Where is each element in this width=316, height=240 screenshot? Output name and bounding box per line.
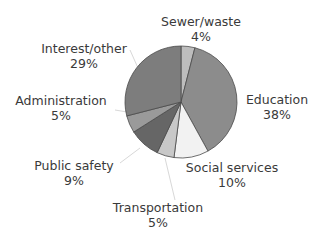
label-interest-other: Interest/other 29% [41, 41, 127, 71]
label-pct: 5% [113, 215, 203, 230]
label-transportation: Transportation 5% [113, 200, 203, 230]
leader-line-public-safety [120, 148, 140, 163]
label-social-services: Social services 10% [186, 160, 278, 190]
label-name: Transportation [113, 200, 203, 215]
label-administration: Administration 5% [15, 93, 106, 123]
label-public-safety: Public safety 9% [34, 158, 114, 188]
leader-line-interest [130, 50, 138, 68]
label-pct: 9% [34, 173, 114, 188]
label-pct: 29% [41, 56, 127, 71]
label-sewer-waste: Sewer/waste 4% [161, 14, 241, 44]
label-pct: 10% [186, 175, 278, 190]
label-name: Education [246, 92, 308, 107]
leader-line-administration [115, 110, 127, 112]
label-name: Social services [186, 160, 278, 175]
label-pct: 5% [15, 108, 106, 123]
leader-line-transportation [165, 158, 175, 200]
label-education: Education 38% [246, 92, 308, 122]
label-name: Public safety [34, 158, 114, 173]
label-name: Administration [15, 93, 106, 108]
label-name: Sewer/waste [161, 14, 241, 29]
label-pct: 38% [246, 107, 308, 122]
label-name: Interest/other [41, 41, 127, 56]
label-pct: 4% [161, 29, 241, 44]
